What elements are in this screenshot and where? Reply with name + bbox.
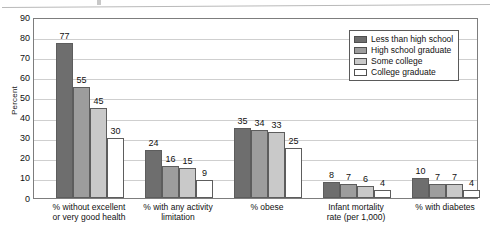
bar-group: 2416159 xyxy=(145,19,213,198)
bar[interactable] xyxy=(162,166,179,198)
legend-item[interactable]: Less than high school xyxy=(354,34,453,44)
y-axis-tick-label: 60 xyxy=(10,74,30,83)
bar-wrap: 45 xyxy=(90,19,107,198)
y-axis-tick-label: 30 xyxy=(10,134,30,143)
bar-wrap: 33 xyxy=(268,19,285,198)
bar-value-label: 25 xyxy=(288,137,298,146)
bar-value-label: 6 xyxy=(363,175,368,184)
y-axis-tick-label: 40 xyxy=(10,114,30,123)
bar[interactable] xyxy=(374,190,391,198)
bar[interactable] xyxy=(107,138,124,198)
bar-wrap: 55 xyxy=(73,19,90,198)
bar-value-label: 55 xyxy=(76,76,86,85)
bar-value-label: 15 xyxy=(182,157,192,166)
legend-swatch-icon xyxy=(354,69,367,76)
y-axis-tick-label: 20 xyxy=(10,154,30,163)
bar[interactable] xyxy=(145,150,162,198)
bar-group: 35343325 xyxy=(234,19,302,198)
bar-value-label: 7 xyxy=(435,173,440,182)
bar-value-label: 35 xyxy=(237,117,247,126)
legend-item[interactable]: Some college xyxy=(354,56,453,66)
legend-item[interactable]: College graduate xyxy=(354,67,453,77)
scan-artifact-mark xyxy=(97,0,101,5)
legend: Less than high schoolHigh school graduat… xyxy=(349,30,459,81)
bar-value-label: 45 xyxy=(93,97,103,106)
bar-value-label: 9 xyxy=(202,169,207,178)
y-axis-tick-label: 70 xyxy=(10,54,30,63)
y-axis-tick-label: 0 xyxy=(10,195,30,204)
bar[interactable] xyxy=(463,190,480,198)
bar-wrap: 16 xyxy=(162,19,179,198)
legend-swatch-icon xyxy=(354,58,367,65)
bar-value-label: 8 xyxy=(329,171,334,180)
y-axis-tick-label: 80 xyxy=(10,34,30,43)
bar-group: 77554530 xyxy=(56,19,124,198)
bar-value-label: 4 xyxy=(469,179,474,188)
legend-item-label: Less than high school xyxy=(371,35,453,44)
bar-value-label: 77 xyxy=(59,32,69,41)
bar-wrap: 15 xyxy=(179,19,196,198)
bar[interactable] xyxy=(73,87,90,198)
bar-value-label: 24 xyxy=(148,139,158,148)
legend-item-label: High school graduate xyxy=(371,46,451,55)
bar-wrap: 24 xyxy=(145,19,162,198)
bar[interactable] xyxy=(323,182,340,198)
bar-value-label: 7 xyxy=(452,173,457,182)
bar-wrap: 30 xyxy=(107,19,124,198)
scan-rule-divider xyxy=(2,4,490,8)
bar-value-label: 34 xyxy=(254,119,264,128)
legend-swatch-icon xyxy=(354,36,367,43)
bar[interactable] xyxy=(179,168,196,198)
bar[interactable] xyxy=(56,43,73,198)
bar[interactable] xyxy=(268,132,285,198)
y-axis-tick-label: 90 xyxy=(10,14,30,23)
bar-wrap: 77 xyxy=(56,19,73,198)
bar[interactable] xyxy=(234,128,251,198)
bar-value-label: 16 xyxy=(165,155,175,164)
bar[interactable] xyxy=(412,178,429,198)
bar-wrap: 9 xyxy=(196,19,213,198)
bar-value-label: 4 xyxy=(380,179,385,188)
x-axis-category-label-line: % with diabetes xyxy=(385,202,492,212)
legend-item[interactable]: High school graduate xyxy=(354,45,453,55)
bar[interactable] xyxy=(357,186,374,198)
bar-value-label: 33 xyxy=(271,121,281,130)
legend-swatch-icon xyxy=(354,47,367,54)
x-axis-category-label-line: limitation xyxy=(118,212,238,222)
y-axis-tick-label: 50 xyxy=(10,94,30,103)
bar[interactable] xyxy=(90,108,107,199)
bar-wrap: 34 xyxy=(251,19,268,198)
bar-wrap: 4 xyxy=(463,19,480,198)
bar-wrap: 25 xyxy=(285,19,302,198)
bar[interactable] xyxy=(340,184,357,198)
bar-chart-figure: Percent 0102030405060708090 775545302416… xyxy=(0,0,492,226)
x-axis-category-label-line: rate (per 1,000) xyxy=(296,212,416,222)
legend-item-label: Some college xyxy=(371,57,423,66)
bar-wrap: 35 xyxy=(234,19,251,198)
bar[interactable] xyxy=(251,130,268,198)
bar[interactable] xyxy=(446,184,463,198)
bar[interactable] xyxy=(429,184,446,198)
bar-value-label: 7 xyxy=(346,173,351,182)
bar-value-label: 30 xyxy=(110,127,120,136)
legend-item-label: College graduate xyxy=(371,68,436,77)
y-axis-tick-label: 10 xyxy=(10,174,30,183)
bar[interactable] xyxy=(285,148,302,198)
bar[interactable] xyxy=(196,180,213,198)
bar-wrap: 8 xyxy=(323,19,340,198)
x-axis-category-label: % with diabetes xyxy=(385,202,492,212)
bar-value-label: 10 xyxy=(415,167,425,176)
